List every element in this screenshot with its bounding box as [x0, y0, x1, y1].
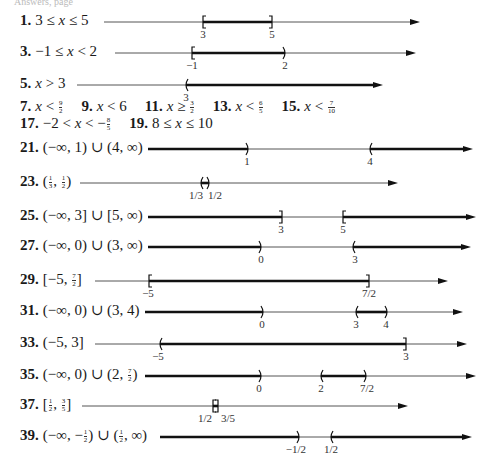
tick-label: 3 [278, 223, 284, 235]
tick-label: 3 [200, 28, 206, 40]
arrow-head-icon [406, 50, 416, 56]
arrow-head-icon [466, 373, 476, 379]
number-line: −1/21/2 [160, 431, 472, 455]
number-line: −12 [115, 47, 416, 71]
arrow-head-icon [388, 180, 398, 186]
number-line: 1/31/2 [80, 177, 398, 201]
tick-label: 2 [282, 59, 288, 71]
arrow-head-icon [457, 341, 467, 347]
arrow-head-icon [398, 403, 408, 409]
number-lines: 35−123141/31/23503−57/2034−53027/21/23/5… [0, 0, 494, 473]
tick-label: 5 [340, 223, 346, 235]
tick-label: 0 [258, 253, 264, 265]
tick-label: 4 [367, 155, 373, 167]
number-line: 14 [148, 143, 473, 167]
tick-label: 7/2 [360, 382, 374, 394]
number-line: −57/2 [95, 275, 448, 299]
number-line: −53 [95, 338, 467, 362]
tick-label: −1/2 [286, 443, 306, 455]
tick-label: 3 [352, 253, 358, 265]
number-line: 35 [104, 16, 420, 40]
arrow-head-icon [453, 309, 463, 315]
tick-label: 7/2 [362, 287, 376, 299]
tick-label: 3 [183, 91, 189, 103]
tick-label: 3 [403, 350, 409, 362]
tick-label: 2 [318, 382, 324, 394]
tick-label: 1/2 [208, 189, 222, 201]
number-line: 35 [148, 211, 476, 235]
tick-label: 4 [383, 318, 389, 330]
tick-label: 3/5 [221, 412, 236, 424]
number-line: 3 [77, 79, 383, 103]
tick-label: 5 [269, 28, 275, 40]
tick-label: 1/2 [324, 443, 338, 455]
tick-label: 3 [353, 318, 359, 330]
arrow-head-icon [438, 278, 448, 284]
arrow-head-icon [410, 19, 420, 25]
tick-label: 0 [256, 382, 262, 394]
number-line: 034 [145, 306, 463, 330]
tick-label: 0 [259, 318, 265, 330]
answer-page: Answers, page 1.3 ≤ x ≤ 53.−1 ≤ x < 25.x… [0, 0, 494, 473]
number-line: 1/23/5 [82, 400, 408, 424]
tick-label: 1/2 [198, 412, 212, 424]
tick-label: −5 [152, 350, 164, 362]
tick-label: 1/3 [189, 189, 204, 201]
number-line: 027/2 [145, 370, 476, 394]
tick-label: 1 [244, 155, 250, 167]
tick-label: −1 [186, 59, 198, 71]
tick-label: −5 [142, 287, 154, 299]
number-line: 03 [148, 241, 471, 265]
